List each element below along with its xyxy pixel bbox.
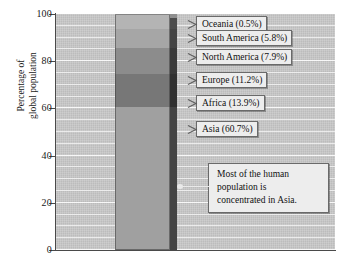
y-tick-label: 20 — [12, 197, 52, 208]
y-tick-label: 0 — [12, 244, 52, 255]
bar-segment — [115, 107, 170, 250]
bar-segment-face — [115, 29, 170, 48]
annotation-line-3: concentrated in Asia. — [217, 194, 321, 207]
gridline — [56, 237, 335, 238]
gridline — [56, 143, 335, 144]
callout-pointer-icon — [188, 20, 197, 29]
bar-segment — [115, 29, 170, 48]
series-callout-africa: Africa (13.9%) — [196, 95, 265, 111]
bar-segment-face — [115, 74, 170, 107]
y-axis-title-line-1: Percentage of — [16, 60, 26, 112]
stacked-bar — [115, 14, 177, 250]
series-callout-label: North America (7.9%) — [202, 52, 287, 62]
series-callout-europe: Europe (11.2%) — [196, 72, 267, 88]
gridline — [56, 155, 335, 156]
y-axis-title: Percentage of global population — [16, 21, 39, 151]
bar-segment-side — [170, 48, 177, 74]
series-callout-south-america: South America (5.8%) — [196, 30, 292, 46]
bar-segment-face — [115, 107, 170, 250]
callout-pointer-icon — [188, 125, 197, 134]
y-tick-label: 100 — [12, 8, 52, 19]
annotation-callout: Most of the human population is concentr… — [208, 163, 329, 213]
callout-pointer-icon — [188, 76, 197, 85]
series-callout-label: Asia (60.7%) — [202, 124, 253, 134]
y-tick-label: 40 — [12, 150, 52, 161]
series-callout-label: Africa (13.9%) — [202, 98, 260, 108]
annotation-line-2: population is — [217, 181, 321, 194]
bar-segment-face — [115, 48, 170, 74]
annotation-leader-line — [181, 186, 209, 187]
series-callout-asia: Asia (60.7%) — [196, 121, 258, 137]
bar-top-cap — [170, 14, 177, 18]
bar-segment-face — [115, 14, 170, 15]
bar-segment — [115, 14, 170, 15]
callout-pointer-icon — [188, 53, 197, 62]
y-axis-title-line-2: global population — [27, 52, 37, 119]
series-callout-label: Europe (11.2%) — [202, 75, 262, 85]
bar-segment-face — [115, 15, 170, 29]
gridline — [56, 214, 335, 215]
x-axis-line — [55, 250, 336, 251]
callout-pointer-icon — [188, 34, 197, 43]
y-axis-line — [55, 13, 56, 251]
series-callout-label: South America (5.8%) — [202, 33, 287, 43]
series-callout-label: Oceania (0.5%) — [202, 19, 262, 29]
bar-segment — [115, 48, 170, 74]
bar-segment — [115, 74, 170, 107]
bar-segment-side — [170, 107, 177, 250]
bar-segment-side — [170, 29, 177, 48]
gridline — [56, 225, 335, 226]
annotation-line-1: Most of the human — [217, 168, 321, 181]
population-stacked-bar-chart: 020406080100 Percentage of global popula… — [0, 0, 351, 267]
bar-segment-side — [170, 74, 177, 107]
bar-segment — [115, 15, 170, 29]
callout-pointer-icon — [188, 99, 197, 108]
series-callout-north-america: North America (7.9%) — [196, 49, 292, 65]
